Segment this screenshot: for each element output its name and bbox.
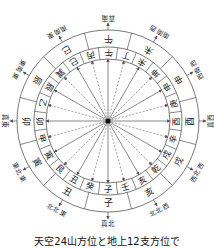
- mountain-char: 癸: [85, 181, 96, 193]
- mountain-divider: [40, 93, 51, 98]
- direction-arrow: [23, 72, 29, 76]
- branch-char: 午: [104, 34, 113, 45]
- branch-char: 卯: [21, 117, 31, 126]
- branch-char: 戌: [172, 155, 186, 168]
- mountain-divider: [165, 145, 176, 150]
- direction-arrow: [187, 72, 193, 76]
- solid-arrow: [108, 90, 162, 121]
- dashed-arrow: [48, 121, 108, 137]
- direction-label: 真南: [101, 14, 115, 23]
- branch-char: 巳: [61, 43, 74, 56]
- branch-char: 未: [142, 43, 155, 57]
- branch-divider: [179, 140, 195, 144]
- dashed-arrow: [108, 121, 124, 181]
- solid-arrow: [77, 121, 108, 175]
- branch-divider: [20, 140, 36, 144]
- branch-char: 子: [104, 198, 113, 208]
- direction-arrow: [154, 36, 158, 42]
- direction-label: 東南東: [10, 58, 28, 81]
- mountain-char: 辛: [168, 133, 180, 144]
- branch-char: 丑: [61, 185, 74, 198]
- dashed-arrow: [64, 77, 108, 121]
- branch-divider: [20, 97, 36, 101]
- mountain-char: 卯: [35, 117, 45, 126]
- solid-arrow: [54, 90, 108, 121]
- mountain-divider: [165, 93, 176, 98]
- direction-label: 真北: [101, 219, 115, 228]
- direction-arrow: [23, 167, 29, 171]
- mountain-divider: [80, 53, 85, 64]
- direction-label: 真西: [206, 114, 214, 128]
- solid-arrow: [108, 121, 162, 152]
- branch-divider: [127, 33, 131, 49]
- direction-label: 真東: [1, 114, 10, 128]
- dashed-arrow: [108, 121, 152, 165]
- dashed-arrow: [92, 121, 108, 181]
- mountain-divider: [169, 111, 181, 113]
- mountain-divider: [35, 129, 47, 131]
- mountain-char: 午: [104, 48, 113, 58]
- dashed-arrow: [108, 121, 168, 137]
- branch-divider: [160, 57, 172, 69]
- mountain-char: 壬: [120, 181, 131, 193]
- branch-char: 寅: [30, 155, 44, 168]
- mountain-divider: [98, 182, 100, 194]
- dashed-arrow: [92, 61, 108, 121]
- mountain-divider: [132, 53, 137, 64]
- mountain-char: 子: [104, 184, 113, 194]
- mountain-divider: [116, 182, 118, 194]
- dashed-arrow: [108, 105, 168, 121]
- mountain-divider: [35, 111, 47, 113]
- dashed-arrow: [108, 61, 124, 121]
- direction-arrow: [59, 200, 63, 206]
- diagram-caption: 天空24山方位と地上12支方位で: [0, 236, 214, 248]
- branch-divider: [44, 57, 56, 69]
- direction-label: 西北西: [188, 161, 205, 183]
- mountain-char: 丁: [120, 49, 131, 61]
- branch-divider: [84, 33, 88, 49]
- dashed-arrow: [108, 77, 152, 121]
- mountain-char: 丙: [85, 49, 96, 61]
- mountain-divider: [80, 178, 85, 189]
- mountain-divider: [169, 129, 181, 131]
- compass-diagram: 午丁未坤申庚酉辛戌乾亥壬子癸丑艮寅甲卯乙辰巽巳丙午未申酉戌亥子丑寅卯辰巳真南南南…: [0, 0, 214, 236]
- solid-arrow: [108, 121, 139, 175]
- dashed-arrow: [48, 105, 108, 121]
- branch-char: 申: [172, 74, 186, 87]
- branch-char: 亥: [142, 185, 155, 199]
- branch-char: 辰: [30, 74, 43, 87]
- solid-arrow: [77, 67, 108, 121]
- mountain-char: 酉: [171, 117, 181, 126]
- mountain-char: 甲: [36, 133, 48, 144]
- solid-arrow: [54, 121, 108, 152]
- direction-label: 北北西: [148, 201, 170, 218]
- branch-divider: [44, 173, 56, 185]
- branch-char: 酉: [185, 117, 195, 126]
- mountain-char: 乙: [36, 98, 48, 109]
- direction-arrow: [59, 36, 63, 42]
- mountain-char: 庚: [168, 98, 180, 109]
- direction-label: 西南西: [188, 58, 206, 81]
- branch-divider: [160, 173, 172, 185]
- solid-arrow: [108, 67, 139, 121]
- branch-divider: [179, 97, 195, 101]
- direction-arrow: [154, 200, 158, 206]
- branch-divider: [127, 192, 131, 208]
- direction-label: 東北東: [10, 161, 28, 184]
- mountain-divider: [116, 48, 118, 60]
- branch-divider: [84, 192, 88, 208]
- direction-arrow: [187, 167, 193, 171]
- mountain-divider: [40, 145, 51, 150]
- direction-label: 北北東: [45, 201, 68, 219]
- center-dot: [105, 118, 110, 123]
- dashed-arrow: [64, 121, 108, 165]
- mountain-divider: [132, 178, 137, 189]
- direction-label: 南南西: [148, 23, 171, 41]
- mountain-divider: [98, 48, 100, 60]
- direction-label: 南南東: [45, 23, 68, 41]
